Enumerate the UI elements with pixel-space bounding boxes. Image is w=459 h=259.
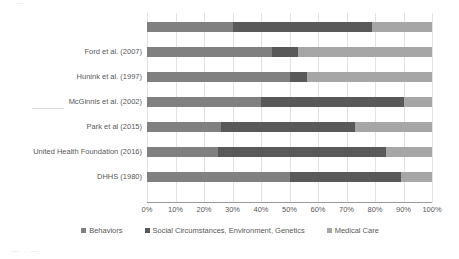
bar-row: DHHS (1980) (147, 172, 432, 182)
legend-item: Medical Care (327, 226, 379, 235)
bar-row: Park et al (2015) (147, 122, 432, 132)
category-label: United Health Foundation (2016) (33, 144, 142, 159)
bar-segment (218, 147, 386, 157)
bar-segment (147, 72, 290, 82)
bar-segment (147, 172, 290, 182)
x-tick-label: 0% (142, 205, 153, 214)
bar-segment (147, 147, 218, 157)
chart-legend: BehaviorsSocial Circumstances, Environme… (10, 226, 450, 235)
x-tick-label: 20% (196, 205, 211, 214)
scan-artifact-rule (32, 108, 64, 109)
bar-segment (272, 47, 298, 57)
legend-swatch-icon (81, 228, 86, 233)
bar-segment (372, 22, 432, 32)
category-label: Ford et al. (2007) (84, 44, 142, 59)
bar-row: Hunink et al. (1997) (147, 72, 432, 82)
category-label: Hunink et al. (1997) (77, 69, 142, 84)
x-tick-label: 30% (225, 205, 240, 214)
bar-segment (404, 97, 433, 107)
legend-label: Medical Care (335, 226, 379, 235)
bar-segment (147, 22, 233, 32)
category-label: DHHS (1980) (97, 169, 142, 184)
category-label: Park et al (2015) (87, 119, 142, 134)
bar-segment (290, 72, 307, 82)
category-label: McGinnis et al. (2002) (69, 94, 142, 109)
bar-row: Ford et al. (2007) (147, 47, 432, 57)
x-tick-label: 70% (339, 205, 354, 214)
x-tick-label: 60% (310, 205, 325, 214)
bar-segment (307, 72, 432, 82)
bar-segment (261, 97, 404, 107)
bar-segment (401, 172, 432, 182)
bar-row: United Health Foundation (2016) (147, 147, 432, 157)
x-axis-tick-labels: 0%10%20%30%40%50%60%70%80%90%100% (147, 205, 432, 217)
bar-segment (147, 97, 261, 107)
stacked-bar-chart: ·—· · ·—· · ·—· Ford et al. (2007)Hunink… (0, 0, 459, 259)
bar-segment (147, 122, 221, 132)
x-tick-label: 10% (168, 205, 183, 214)
bar-segment (147, 47, 272, 57)
x-tick-label: 50% (282, 205, 297, 214)
bar-row: McGinnis et al. (2002) (147, 97, 432, 107)
scan-artifact-top-left: ·—· · (14, 0, 33, 6)
gridline (432, 13, 433, 203)
x-axis-line (147, 202, 432, 203)
x-tick-label: 100% (422, 205, 441, 214)
legend-item: Social Circumstances, Environment, Genet… (145, 226, 305, 235)
plot-frame: Ford et al. (2007)Hunink et al. (1997)Mc… (10, 13, 450, 213)
bar-segment (298, 47, 432, 57)
plot-area: Ford et al. (2007)Hunink et al. (1997)Mc… (147, 13, 432, 203)
legend-label: Social Circumstances, Environment, Genet… (153, 226, 305, 235)
x-tick-label: 90% (396, 205, 411, 214)
legend-swatch-icon (145, 228, 150, 233)
legend-swatch-icon (327, 228, 332, 233)
legend-label: Behaviors (89, 226, 122, 235)
bar-segment (221, 122, 355, 132)
bar-segment (233, 22, 373, 32)
bar-segment (355, 122, 432, 132)
x-tick-label: 40% (253, 205, 268, 214)
bar-segment (386, 147, 432, 157)
bar-segment (290, 172, 401, 182)
x-tick-label: 80% (367, 205, 382, 214)
bar-row (147, 22, 432, 32)
scan-artifact-bottom-left: ·—· · ·—· (10, 248, 40, 254)
legend-item: Behaviors (81, 226, 122, 235)
